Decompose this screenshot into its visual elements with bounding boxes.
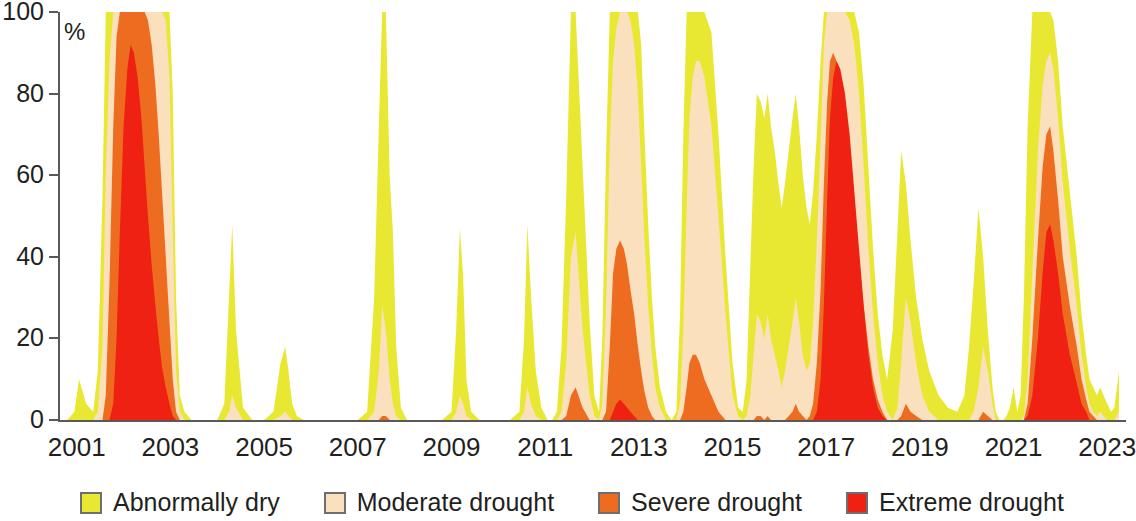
y-tick-mark [49,11,58,13]
y-axis-unit-label: % [64,20,85,44]
x-tick-label: 2019 [891,432,949,462]
legend-swatch [598,492,620,514]
x-tick-label: 2017 [797,432,855,462]
x-tick-label: 2015 [704,432,762,462]
plot-area [58,12,1126,420]
y-tick-label: 80 [0,81,44,106]
x-tick-label: 2005 [235,432,293,462]
x-tick-label: 2023 [1078,432,1136,462]
x-tick-label: 2009 [423,432,481,462]
legend-entry[interactable]: Moderate drought [324,489,554,516]
y-tick-mark [49,419,58,421]
series-area [67,45,1119,420]
y-tick-mark [49,93,58,95]
y-tick-mark [49,256,58,258]
x-axis-line [58,420,1126,422]
legend-swatch [846,492,868,514]
legend: Abnormally dryModerate droughtSevere dro… [80,489,1108,516]
y-tick-label: 40 [0,244,44,269]
series-area [67,12,1119,420]
x-tick-label: 2007 [329,432,387,462]
plot-canvas [58,12,1126,420]
y-tick-mark [49,174,58,176]
y-tick-mark [49,337,58,339]
legend-label: Abnormally dry [113,489,280,516]
y-tick-label: 0 [0,407,44,432]
y-axis-line [58,12,60,421]
legend-label: Moderate drought [357,489,554,516]
legend-label: Extreme drought [879,489,1064,516]
series-area [67,12,1119,420]
y-tick-label: 100 [0,0,44,24]
legend-label: Severe drought [631,489,802,516]
x-tick-label: 2011 [517,432,573,462]
legend-entry[interactable]: Abnormally dry [80,489,280,516]
x-tick-label: 2013 [610,432,668,462]
x-tick-label: 2001 [48,432,106,462]
y-tick-label: 20 [0,325,44,350]
legend-entry[interactable]: Extreme drought [846,489,1064,516]
x-tick-label: 2003 [141,432,199,462]
y-tick-label: 60 [0,162,44,187]
legend-swatch [324,492,346,514]
legend-entry[interactable]: Severe drought [598,489,802,516]
legend-swatch [80,492,102,514]
x-tick-label: 2021 [985,432,1043,462]
series-area [67,12,1119,420]
